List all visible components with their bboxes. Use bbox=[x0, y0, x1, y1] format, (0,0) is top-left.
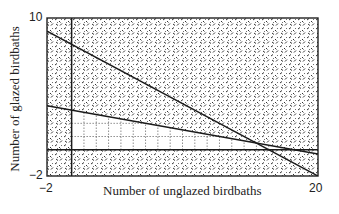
y-tick-min: −2 bbox=[29, 168, 43, 182]
x-tick-max: 20 bbox=[309, 181, 322, 195]
hatched-infeasible-area bbox=[47, 18, 318, 176]
y-axis-title: Number of glazed birdbaths bbox=[7, 19, 23, 179]
y-tick-max: 10 bbox=[29, 10, 42, 24]
x-axis-title: Number of unglazed birdbaths bbox=[103, 183, 261, 199]
x-tick-min: −2 bbox=[39, 181, 53, 195]
